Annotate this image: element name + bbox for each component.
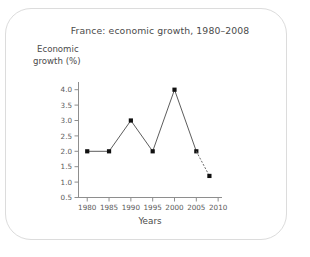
y-tick-label: 1.5 — [61, 162, 72, 171]
y-axis: 0.51.01.52.02.53.03.54.0 — [61, 82, 79, 202]
series-line-projected — [196, 151, 209, 176]
y-tick-label: 1.0 — [61, 178, 73, 187]
x-tick-label: 1980 — [78, 203, 97, 212]
data-point-marker — [172, 88, 176, 92]
x-tick-label: 2000 — [165, 203, 184, 212]
data-point-marker — [129, 118, 133, 122]
x-tick-label: 1985 — [100, 203, 118, 212]
x-tick-label: 2010 — [209, 203, 228, 212]
y-tick-label: 4.0 — [61, 85, 73, 94]
y-tick-group: 0.51.01.52.02.53.03.54.0 — [61, 85, 79, 202]
data-point-marker — [194, 149, 198, 153]
data-point-marker — [85, 149, 89, 153]
y-tick-label: 3.5 — [61, 101, 72, 110]
x-axis: 1980198519901995200020052010 — [78, 198, 228, 212]
y-tick-label: 3.0 — [61, 116, 73, 125]
y-tick-label: 2.0 — [61, 147, 73, 156]
data-point-marker — [151, 149, 155, 153]
x-tick-group: 1980198519901995200020052010 — [78, 198, 228, 212]
x-tick-label: 1995 — [144, 203, 162, 212]
y-tick-label: 2.5 — [61, 132, 72, 141]
x-tick-label: 1990 — [122, 203, 141, 212]
x-tick-label: 2005 — [187, 203, 205, 212]
y-tick-label: 0.5 — [61, 193, 72, 202]
data-point-marker — [107, 149, 111, 153]
data-series-group — [85, 88, 211, 178]
data-point-marker — [207, 174, 211, 178]
x-axis-title: Years — [78, 216, 222, 226]
series-line-observed — [87, 90, 196, 152]
